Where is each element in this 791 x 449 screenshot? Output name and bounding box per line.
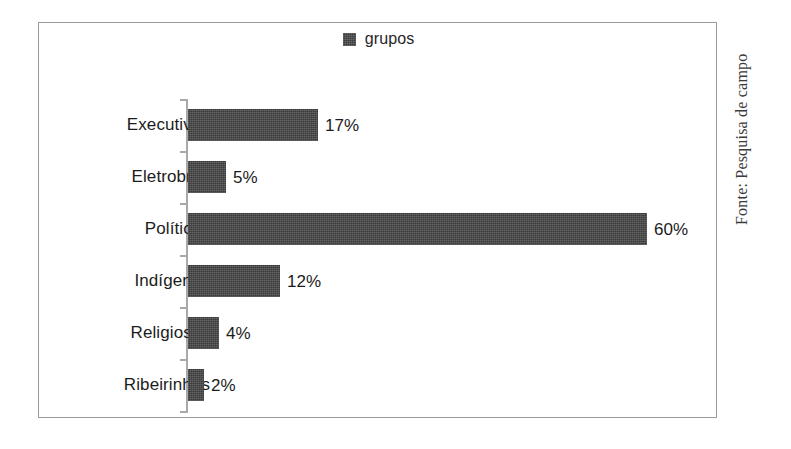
axis-tick: [180, 411, 187, 413]
bar-value-label: 2%: [211, 377, 236, 394]
figure-frame: grupos Executivos 17% Eletrobras 5% Polí…: [38, 22, 717, 418]
bar-rect[interactable]: [188, 161, 226, 193]
bar-value-label: 60%: [654, 221, 688, 238]
plot-area: Executivos 17% Eletrobras 5% Políticos 6…: [39, 69, 718, 409]
bar-value-label: 5%: [233, 169, 258, 186]
legend-square-icon: [343, 33, 356, 46]
bar-track: 4%: [188, 317, 251, 349]
bar-value-label: 17%: [325, 117, 359, 134]
source-caption: Fonte: Pesquisa de campo: [733, 54, 751, 225]
bar-row: Ribeirinhos 2%: [39, 359, 718, 411]
bar-track: 2%: [188, 369, 236, 401]
bar-row: Executivos 17%: [39, 99, 718, 151]
bar-row: Religiosos 4%: [39, 307, 718, 359]
chart-legend: grupos: [39, 31, 718, 47]
bar-rect[interactable]: [188, 317, 219, 349]
bar-track: 12%: [188, 265, 321, 297]
bar-track: 60%: [188, 213, 688, 245]
bar-rect[interactable]: [188, 265, 280, 297]
bar-value-label: 12%: [287, 273, 321, 290]
bar-track: 5%: [188, 161, 258, 193]
legend-label: grupos: [365, 31, 415, 47]
bar-track: 17%: [188, 109, 359, 141]
bar-row: Indígenas 12%: [39, 255, 718, 307]
bar-row: Políticos 60%: [39, 203, 718, 255]
bar-row: Eletrobras 5%: [39, 151, 718, 203]
bar-value-label: 4%: [226, 325, 251, 342]
bar-rect[interactable]: [188, 213, 647, 245]
bar-rect[interactable]: [188, 369, 204, 401]
bar-rect[interactable]: [188, 109, 318, 141]
